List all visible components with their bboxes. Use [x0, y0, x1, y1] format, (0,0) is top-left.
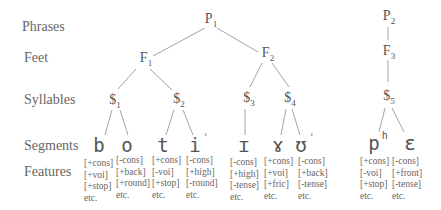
- edge-s2-i: [183, 110, 193, 135]
- node-f3: F3: [383, 43, 395, 61]
- edge-p1-f1: [153, 28, 205, 56]
- edge-f2-s3: [250, 63, 262, 87]
- edge-s1-o: [120, 110, 128, 135]
- segment-small-capital-i: ɪ: [238, 134, 251, 156]
- edge-p1-f2: [217, 28, 258, 52]
- segment-ram-horn: ɤ: [272, 134, 285, 156]
- node-s2: $2: [173, 91, 185, 109]
- features-ram-horn: [+cons][+voi][+fric]etc.: [264, 156, 293, 202]
- node-s5: $5: [383, 88, 395, 106]
- edge-s4-gamma: [281, 109, 286, 135]
- edge-f2-s4: [272, 63, 289, 87]
- segment-b: b: [93, 134, 106, 156]
- edge-s4-upsilon: [292, 109, 300, 135]
- features-t: [+cons][-voi][+stop]etc.: [152, 155, 181, 201]
- edge-f1-s1: [118, 69, 136, 89]
- segment-o: o: [121, 134, 134, 156]
- edge-s1-b: [105, 110, 112, 135]
- segment-t: t: [157, 134, 170, 156]
- segment-upsilon-stressed: ʊˈ: [295, 134, 314, 156]
- node-s3: $3: [243, 90, 255, 108]
- features-i: [-cons][+high][-round]etc.: [186, 155, 218, 201]
- edge-s5-epsilon: [392, 108, 404, 132]
- node-s4: $4: [284, 90, 296, 108]
- edge-s5-ph: [379, 108, 385, 132]
- features-small-capital-i: [-cons][+high][-tense]etc.: [230, 157, 259, 203]
- level-label-segments: Segments: [24, 138, 78, 154]
- node-f1: F1: [140, 50, 152, 68]
- level-label-feet: Feet: [24, 50, 48, 66]
- features-b: [+cons][+voi][+stop]etc.: [84, 158, 113, 204]
- segment-i-stressed: iˈ: [189, 134, 208, 156]
- level-label-features: Features: [24, 164, 71, 180]
- features-upsilon: [-cons][+back][-tense]etc.: [298, 156, 328, 202]
- features-o: [-cons][+back][+round]etc.: [116, 155, 150, 201]
- features-epsilon: [-cons][+front][-tense]etc.: [392, 156, 422, 202]
- node-f2: F2: [262, 45, 274, 63]
- node-p1: P1: [205, 11, 217, 29]
- segment-p-aspirated: ph: [368, 132, 387, 154]
- node-p2: P2: [383, 8, 395, 26]
- edge-f1-s2: [150, 69, 172, 90]
- segment-epsilon: ɛ: [404, 132, 417, 154]
- level-label-syllables: Syllables: [24, 92, 75, 108]
- features-p-aspirated: [+cons][-voi][+stop]etc.: [360, 156, 389, 202]
- edge-s2-t: [166, 110, 174, 135]
- level-label-phrases: Phrases: [22, 19, 65, 35]
- node-s1: $1: [109, 92, 121, 110]
